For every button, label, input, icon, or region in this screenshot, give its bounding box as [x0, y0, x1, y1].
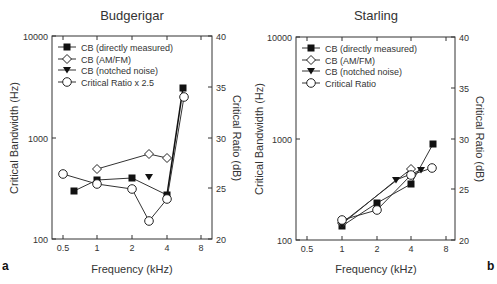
x-tick-label: 4: [164, 243, 169, 253]
chart-title: Budgerigar: [100, 8, 164, 23]
series-cb-direct-markers: [339, 141, 437, 230]
panel-starling: Starling 10000 1000 100 40 35 30 25 20: [253, 8, 494, 275]
y-right-tick-label: 20: [216, 235, 226, 245]
series-notched-noise-markers: [145, 174, 153, 181]
y-right-tick-label: 20: [459, 236, 469, 246]
legend-item: CB (notched noise): [325, 67, 402, 77]
y-tick-label: 10000: [267, 33, 292, 43]
x-tick-label: 2: [374, 244, 379, 254]
legend-item: Critical Ratio x 2.5: [81, 78, 154, 88]
y-right-tick-label: 35: [216, 83, 226, 93]
y-tick-label: 1000: [28, 134, 48, 144]
y-tick-label: 100: [33, 235, 48, 245]
y-right-tick-label: 30: [216, 134, 226, 144]
y-right-tick-label: 35: [459, 84, 469, 94]
x-tick-label: 0.5: [301, 244, 314, 254]
y-right-tick-label: 40: [459, 33, 469, 43]
panel-letter: b: [487, 259, 494, 273]
y-axis-label: Critical Bandwidth (Hz): [8, 82, 20, 194]
y-tick-label: 10000: [23, 32, 48, 42]
legend-item: Critical Ratio: [325, 79, 376, 89]
series-lines: [342, 144, 433, 226]
y-right-tick-label: 25: [459, 185, 469, 195]
y-right-tick-label: 40: [216, 32, 226, 42]
y-axis-label: Critical Bandwidth (Hz): [253, 83, 265, 195]
line-cb-direct: [74, 178, 167, 195]
line-cb-direct-steep: [167, 88, 183, 195]
legend: CB (directly measured) CB (AM/FM) CB (no…: [58, 43, 173, 88]
y-axis-right-ticks: [451, 37, 455, 240]
x-tick-label: 8: [443, 244, 448, 254]
x-tick-label: 0.5: [57, 243, 70, 253]
x-tick-label: 2: [129, 243, 134, 253]
y-right-tick-label: 30: [459, 135, 469, 145]
panel-letter: a: [2, 259, 9, 273]
x-tick-label: 1: [339, 244, 344, 254]
line-cb-amfm: [97, 154, 167, 169]
x-tick-label: 8: [198, 243, 203, 253]
y-axis-left-ticks: [52, 36, 56, 239]
legend-item: CB (directly measured): [325, 44, 417, 54]
legend-item: CB (AM/FM): [325, 56, 375, 66]
y-right-tick-label: 25: [216, 184, 226, 194]
x-axis-label: Frequency (kHz): [335, 263, 416, 275]
y-tick-label: 1000: [272, 135, 292, 145]
figure: Budgerigar 10000 1000 100 40 35 30 25 20: [0, 0, 497, 284]
panel-budgerigar: Budgerigar 10000 1000 100 40 35 30 25 20: [2, 8, 243, 275]
chart-title: Starling: [354, 8, 398, 23]
x-tick-label: 4: [408, 244, 413, 254]
series-cb-amfm-markers: [93, 150, 172, 174]
legend-item: CB (directly measured): [81, 43, 173, 53]
line-cb-direct: [342, 144, 433, 226]
y-axis-right-label: Critical Ratio (dB): [231, 95, 243, 181]
legend: CB (directly measured) CB (AM/FM) CB (no…: [302, 44, 417, 89]
legend-item: CB (AM/FM): [81, 55, 131, 65]
y-axis-right-ticks: [208, 36, 212, 239]
legend-item: CB (notched noise): [81, 66, 158, 76]
y-axis-right-label: Critical Ratio (dB): [474, 96, 486, 182]
y-axis-left-ticks: [296, 37, 300, 240]
x-axis-label: Frequency (kHz): [91, 263, 172, 275]
x-tick-label: 1: [94, 243, 99, 253]
y-tick-label: 100: [277, 236, 292, 246]
